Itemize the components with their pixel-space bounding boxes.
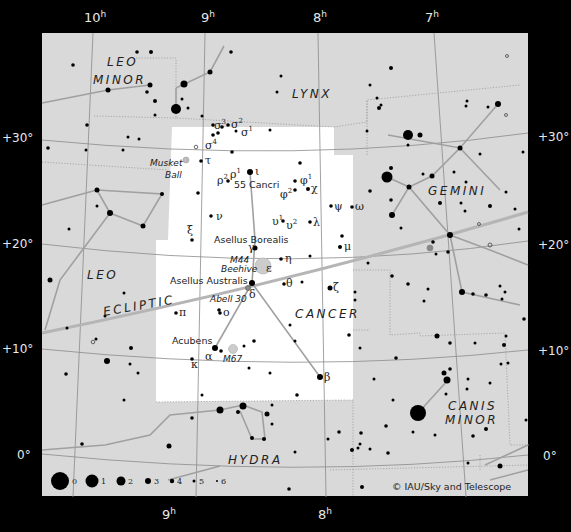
svg-text:μ: μ bbox=[344, 240, 351, 253]
svg-text:0°: 0° bbox=[17, 448, 31, 462]
svg-text:θ: θ bbox=[286, 277, 293, 290]
svg-text:+20°: +20° bbox=[2, 237, 33, 251]
svg-text:+30°: +30° bbox=[2, 131, 33, 145]
svg-text:β: β bbox=[324, 371, 330, 384]
svg-text:Asellus Borealis: Asellus Borealis bbox=[214, 234, 289, 245]
svg-text:ο: ο bbox=[223, 306, 230, 319]
svg-text:κ: κ bbox=[191, 358, 198, 371]
svg-text:+10°: +10° bbox=[538, 344, 569, 358]
svg-text:ω: ω bbox=[355, 200, 364, 213]
svg-text:δ: δ bbox=[249, 288, 256, 301]
svg-text:Abell 30: Abell 30 bbox=[209, 294, 247, 304]
svg-text:η: η bbox=[285, 252, 292, 265]
svg-text:1: 1 bbox=[101, 477, 106, 486]
svg-text:2: 2 bbox=[128, 477, 133, 486]
svg-text:M67: M67 bbox=[223, 354, 242, 364]
svg-text:6: 6 bbox=[221, 477, 226, 486]
svg-text:π: π bbox=[179, 306, 186, 319]
svg-text:λ: λ bbox=[313, 216, 320, 229]
svg-text:χ: χ bbox=[311, 182, 318, 195]
svg-text:ι: ι bbox=[255, 165, 259, 178]
copyright-credit: © IAU/Sky and Telescope bbox=[392, 481, 511, 492]
svg-text:+30°: +30° bbox=[538, 130, 569, 144]
svg-text:MINOR: MINOR bbox=[445, 413, 498, 427]
svg-text:Acubens: Acubens bbox=[172, 335, 212, 346]
svg-text:HYDRA: HYDRA bbox=[228, 453, 283, 467]
svg-text:4: 4 bbox=[177, 477, 182, 486]
svg-text:ψ: ψ bbox=[334, 200, 343, 213]
m35-cluster bbox=[427, 245, 433, 251]
svg-text:Asellus Australis: Asellus Australis bbox=[170, 275, 248, 286]
svg-text:LYNX: LYNX bbox=[292, 87, 332, 101]
svg-text:LEO: LEO bbox=[87, 268, 118, 282]
svg-text:GEMINI: GEMINI bbox=[428, 184, 486, 198]
svg-text:CANCER: CANCER bbox=[295, 307, 360, 321]
star-chart: 10h 9h 8h 7h 9h 8h +30° +20° +10° 0° +30… bbox=[0, 0, 571, 532]
svg-text:5: 5 bbox=[199, 477, 204, 486]
svg-text:ε: ε bbox=[266, 262, 272, 275]
svg-text:MINOR: MINOR bbox=[93, 73, 146, 87]
svg-text:α: α bbox=[205, 350, 213, 363]
svg-text:ξ: ξ bbox=[187, 224, 193, 237]
svg-text:LEO: LEO bbox=[107, 55, 138, 69]
svg-text:3: 3 bbox=[154, 477, 159, 486]
m67-cluster bbox=[229, 345, 238, 354]
svg-text:0: 0 bbox=[72, 477, 77, 486]
svg-text:τ: τ bbox=[205, 154, 211, 167]
svg-text:ν: ν bbox=[216, 210, 223, 223]
svg-text:0°: 0° bbox=[543, 449, 557, 463]
svg-text:CANIS: CANIS bbox=[448, 399, 497, 413]
svg-text:55 Cancri: 55 Cancri bbox=[234, 179, 279, 190]
svg-text:Musket: Musket bbox=[150, 158, 183, 168]
svg-text:+10°: +10° bbox=[2, 342, 33, 356]
svg-text:+20°: +20° bbox=[538, 238, 569, 252]
svg-text:ζ: ζ bbox=[333, 281, 339, 294]
svg-text:Beehive: Beehive bbox=[221, 264, 258, 274]
svg-text:Ball: Ball bbox=[165, 170, 182, 180]
